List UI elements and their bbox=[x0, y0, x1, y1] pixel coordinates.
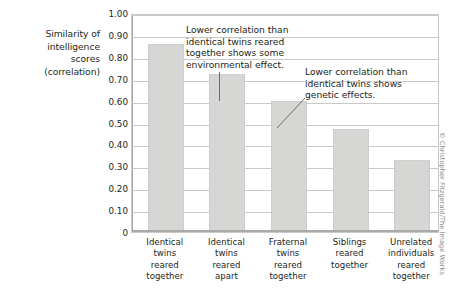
y-tick-label: 0.90 bbox=[96, 31, 128, 41]
annotation-1-line-2: together shows some bbox=[186, 47, 288, 59]
x-axis-category-label: Identicaltwinsrearedapart bbox=[196, 237, 258, 283]
annotation-2-line-1: identical twins shows bbox=[305, 78, 407, 90]
category-label-line: Fraternal bbox=[257, 237, 319, 248]
category-label-line: reared bbox=[319, 248, 381, 259]
category-label-line: apart bbox=[196, 271, 258, 282]
category-label-line: Identical bbox=[134, 237, 196, 248]
category-label-line: reared bbox=[257, 260, 319, 271]
y-tick-label: 0 bbox=[96, 228, 128, 238]
x-axis-baseline bbox=[132, 230, 438, 232]
x-axis-category-label: Unrelatedindividualsrearedtogether bbox=[380, 237, 442, 283]
x-axis-category-labels: IdenticaltwinsrearedtogetherIdenticaltwi… bbox=[131, 237, 439, 293]
y-tick-label: 0.10 bbox=[96, 206, 128, 216]
bar bbox=[333, 129, 369, 232]
y-axis-title: Similarity of intelligence scores (corre… bbox=[2, 28, 100, 78]
category-label-line: reared bbox=[134, 260, 196, 271]
category-label-line: reared bbox=[196, 260, 258, 271]
category-label-line: Identical bbox=[196, 237, 258, 248]
bar bbox=[209, 74, 245, 232]
y-tick-label: 0.40 bbox=[96, 140, 128, 150]
category-label-line: together bbox=[380, 271, 442, 282]
x-axis-category-label: Identicaltwinsrearedtogether bbox=[134, 237, 196, 283]
image-credit: © Christopher Fitzgerald/The Image Works bbox=[438, 132, 446, 275]
y-tick-label: 0.20 bbox=[96, 184, 128, 194]
y-axis-title-line-2: scores bbox=[2, 53, 100, 66]
category-label-line: Siblings bbox=[319, 237, 381, 248]
y-tick-label: 0.80 bbox=[96, 53, 128, 63]
bar bbox=[148, 44, 184, 232]
y-axis-tick-labels: 1.000.900.800.700.600.500.400.300.200.10… bbox=[96, 14, 128, 233]
category-label-line: twins bbox=[134, 248, 196, 259]
category-label-line: reared bbox=[380, 260, 442, 271]
x-axis-category-label: Siblingsrearedtogether bbox=[319, 237, 381, 271]
y-axis-title-line-3: (correlation) bbox=[2, 66, 100, 79]
x-axis-category-label: Fraternaltwinsrearedtogether bbox=[257, 237, 319, 283]
annotation-genetic-effects: Lower correlation than identical twins s… bbox=[305, 66, 407, 101]
category-label-line: individuals bbox=[380, 248, 442, 259]
category-label-line: together bbox=[319, 260, 381, 271]
y-axis-title-line-0: Similarity of bbox=[2, 28, 100, 41]
y-tick-label: 0.60 bbox=[96, 97, 128, 107]
category-label-line: together bbox=[257, 271, 319, 282]
category-label-line: Unrelated bbox=[380, 237, 442, 248]
annotation-1-line-1: identical twins reared bbox=[186, 36, 288, 48]
y-tick-label: 1.00 bbox=[96, 9, 128, 19]
gridline bbox=[132, 15, 438, 16]
annotation-2-leader-line bbox=[276, 97, 306, 129]
annotation-1-leader-line bbox=[219, 72, 220, 101]
y-axis-line bbox=[132, 15, 133, 232]
y-tick-label: 0.70 bbox=[96, 75, 128, 85]
category-label-line: twins bbox=[257, 248, 319, 259]
bar-chart-figure: Similarity of intelligence scores (corre… bbox=[0, 0, 470, 296]
y-tick-label: 0.30 bbox=[96, 162, 128, 172]
annotation-1-line-3: environmental effect. bbox=[186, 59, 288, 71]
y-axis-title-line-1: intelligence bbox=[2, 41, 100, 54]
annotation-environmental-effect: Lower correlation than identical twins r… bbox=[186, 24, 288, 70]
annotation-2-line-2: genetic effects. bbox=[305, 89, 407, 101]
annotation-2-line-0: Lower correlation than bbox=[305, 66, 407, 78]
annotation-1-line-0: Lower correlation than bbox=[186, 24, 288, 36]
y-tick-label: 0.50 bbox=[96, 119, 128, 129]
category-label-line: twins bbox=[196, 248, 258, 259]
bar bbox=[394, 160, 430, 232]
category-label-line: together bbox=[134, 271, 196, 282]
